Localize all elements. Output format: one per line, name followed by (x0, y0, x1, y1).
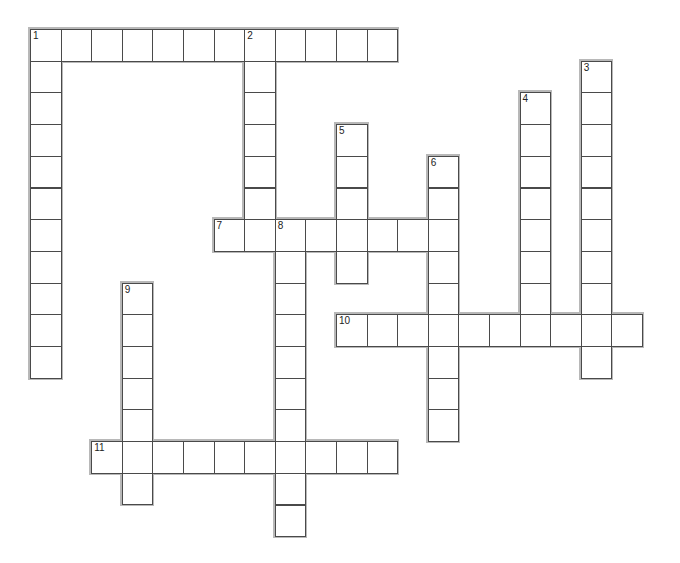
cell-letter-input[interactable] (368, 315, 398, 346)
crossword-cell[interactable] (397, 314, 429, 347)
crossword-cell[interactable] (520, 251, 552, 284)
cell-letter-input[interactable] (459, 315, 489, 346)
cell-letter-input[interactable] (31, 347, 61, 378)
crossword-cell[interactable] (520, 283, 552, 316)
cell-letter-input[interactable] (123, 315, 153, 346)
cell-letter-input[interactable] (429, 252, 459, 283)
crossword-cell[interactable] (122, 29, 154, 62)
cell-letter-input[interactable] (521, 315, 551, 346)
crossword-cell[interactable] (30, 219, 62, 252)
cell-letter-input[interactable] (123, 410, 153, 441)
crossword-cell[interactable] (581, 219, 613, 252)
crossword-cell[interactable] (30, 251, 62, 284)
crossword-cell[interactable] (520, 219, 552, 252)
crossword-cell[interactable] (581, 283, 613, 316)
cell-letter-input[interactable] (429, 379, 459, 410)
cell-letter-input[interactable] (123, 379, 153, 410)
cell-letter-input[interactable] (31, 125, 61, 156)
cell-letter-input[interactable] (337, 315, 367, 346)
cell-letter-input[interactable] (582, 315, 612, 346)
cell-letter-input[interactable] (276, 410, 306, 441)
crossword-cell[interactable] (520, 188, 552, 221)
crossword-cell[interactable] (152, 441, 184, 474)
cell-letter-input[interactable] (368, 220, 398, 251)
cell-letter-input[interactable] (582, 62, 612, 93)
cell-letter-input[interactable] (245, 62, 275, 93)
crossword-cell[interactable] (520, 314, 552, 347)
cell-letter-input[interactable] (276, 220, 306, 251)
cell-letter-input[interactable] (521, 252, 551, 283)
crossword-cell[interactable] (122, 314, 154, 347)
crossword-cell[interactable]: 5 (336, 124, 368, 157)
crossword-cell[interactable] (581, 156, 613, 189)
crossword-cell[interactable] (214, 29, 246, 62)
crossword-cell[interactable]: 3 (581, 61, 613, 94)
crossword-cell[interactable] (397, 219, 429, 252)
cell-letter-input[interactable] (398, 315, 428, 346)
crossword-cell[interactable] (305, 29, 337, 62)
cell-letter-input[interactable] (31, 252, 61, 283)
cell-letter-input[interactable] (31, 189, 61, 220)
cell-letter-input[interactable] (582, 93, 612, 124)
cell-letter-input[interactable] (245, 125, 275, 156)
crossword-cell[interactable] (428, 188, 460, 221)
cell-letter-input[interactable] (306, 442, 336, 473)
crossword-cell[interactable] (30, 124, 62, 157)
crossword-cell[interactable] (428, 346, 460, 379)
crossword-cell[interactable] (428, 314, 460, 347)
crossword-cell[interactable] (367, 314, 399, 347)
crossword-cell[interactable] (275, 409, 307, 442)
cell-letter-input[interactable] (31, 220, 61, 251)
crossword-cell[interactable] (122, 409, 154, 442)
cell-letter-input[interactable] (31, 62, 61, 93)
crossword-cell[interactable] (244, 92, 276, 125)
cell-letter-input[interactable] (337, 252, 367, 283)
cell-letter-input[interactable] (123, 30, 153, 61)
crossword-cell[interactable] (61, 29, 93, 62)
cell-letter-input[interactable] (337, 125, 367, 156)
cell-letter-input[interactable] (582, 125, 612, 156)
cell-letter-input[interactable] (551, 315, 581, 346)
crossword-cell[interactable] (520, 156, 552, 189)
cell-letter-input[interactable] (31, 93, 61, 124)
cell-letter-input[interactable] (31, 284, 61, 315)
crossword-cell[interactable] (30, 92, 62, 125)
cell-letter-input[interactable] (123, 284, 153, 315)
cell-letter-input[interactable] (92, 30, 122, 61)
crossword-cell[interactable] (244, 219, 276, 252)
crossword-cell[interactable] (30, 61, 62, 94)
crossword-cell[interactable] (581, 124, 613, 157)
cell-letter-input[interactable] (153, 442, 183, 473)
cell-letter-input[interactable] (306, 30, 336, 61)
crossword-cell[interactable] (550, 314, 582, 347)
cell-letter-input[interactable] (184, 442, 214, 473)
crossword-cell[interactable] (336, 188, 368, 221)
crossword-cell[interactable] (428, 219, 460, 252)
crossword-cell[interactable] (30, 314, 62, 347)
cell-letter-input[interactable] (245, 442, 275, 473)
crossword-cell[interactable]: 2 (244, 29, 276, 62)
cell-letter-input[interactable] (429, 410, 459, 441)
crossword-cell[interactable] (152, 29, 184, 62)
crossword-cell[interactable] (367, 219, 399, 252)
crossword-cell[interactable] (244, 156, 276, 189)
cell-letter-input[interactable] (215, 30, 245, 61)
crossword-cell[interactable] (367, 441, 399, 474)
cell-letter-input[interactable] (612, 315, 642, 346)
crossword-cell[interactable] (91, 29, 123, 62)
crossword-cell[interactable] (428, 409, 460, 442)
cell-letter-input[interactable] (521, 93, 551, 124)
crossword-cell[interactable] (336, 441, 368, 474)
cell-letter-input[interactable] (276, 506, 306, 537)
cell-letter-input[interactable] (31, 30, 61, 61)
crossword-cell[interactable] (336, 29, 368, 62)
cell-letter-input[interactable] (245, 30, 275, 61)
cell-letter-input[interactable] (31, 315, 61, 346)
cell-letter-input[interactable] (276, 379, 306, 410)
crossword-cell[interactable] (244, 61, 276, 94)
cell-letter-input[interactable] (123, 442, 153, 473)
crossword-cell[interactable] (30, 156, 62, 189)
crossword-cell[interactable]: 7 (214, 219, 246, 252)
crossword-cell[interactable] (214, 441, 246, 474)
cell-letter-input[interactable] (429, 189, 459, 220)
